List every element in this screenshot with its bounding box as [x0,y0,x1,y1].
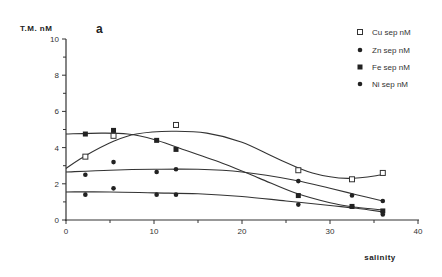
cu-data-point [83,154,88,159]
zn-data-point [154,170,159,175]
panel-label: a [96,22,103,36]
fe-data-point [83,132,88,137]
fe-data-point [111,128,116,133]
x-tick-label: 0 [64,227,69,236]
x-tick-label: 30 [326,227,335,236]
ni-data-point [154,192,159,197]
zn-data-point [381,199,386,204]
zn-data-point [296,179,301,184]
cu-data-point [380,170,385,175]
ni-data-point [83,192,88,197]
ni-data-point [174,192,179,197]
y-tick-label: 0 [55,216,60,225]
zn-data-point [174,167,179,172]
zn-data-point [111,160,116,165]
ni-data-point [296,202,301,207]
x-tick-label: 40 [414,227,423,236]
salinity-metal-chart: T.M. nM a salinity 010203040 0246810 Cu … [0,0,442,277]
legend-marker-cu [358,30,363,35]
fe-data-point [296,193,301,198]
zn-data-point [83,172,88,177]
legend-label-ni: Ni sep nM [372,80,408,89]
cu-data-point [350,177,355,182]
ni-data-point [111,186,116,191]
legend-label-cu: Cu sep nM [372,28,411,37]
x-tick-label: 20 [238,227,247,236]
x-tick-label: 10 [150,227,159,236]
ni-fit-curve [66,192,383,212]
cu-data-point [111,133,116,138]
y-tick-label: 4 [55,144,60,153]
fe-data-point [154,138,159,143]
legend-marker-fe [358,65,363,70]
x-axis-title: salinity [364,253,396,262]
y-tick-label: 10 [50,35,59,44]
cu-data-point [174,122,179,127]
legend-label-fe: Fe sep nM [372,63,410,72]
fe-fit-curve [66,133,383,210]
zn-fit-curve [66,169,383,201]
y-tick-label: 6 [55,107,60,116]
ni-data-point [381,212,386,217]
y-axis-title: T.M. nM [20,24,52,33]
cu-data-point [296,168,301,173]
fe-data-point [174,147,179,152]
zn-data-point [350,193,355,198]
ni-data-point [350,204,355,209]
y-tick-label: 2 [55,180,60,189]
legend-marker-ni [358,82,363,87]
legend-label-zn: Zn sep nM [372,46,410,55]
legend-marker-zn [358,48,363,53]
y-tick-label: 8 [55,71,60,80]
